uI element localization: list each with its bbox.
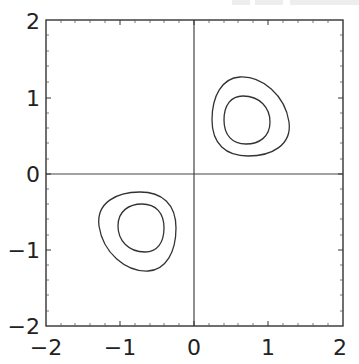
contour-plot: 2 1 0 −1 −2 −2 −1 0 1 2 <box>0 0 359 364</box>
x-tick-label: −1 <box>104 335 136 360</box>
x-tick-label: 2 <box>333 335 347 360</box>
x-tick-label: 1 <box>261 335 275 360</box>
x-tick-label: 0 <box>187 335 201 360</box>
y-tick-label: 0 <box>26 162 40 187</box>
y-tick-label: −1 <box>8 238 40 263</box>
y-tick-label: 2 <box>26 9 40 34</box>
contour-lower-left-inner <box>118 204 164 252</box>
x-tick-label: −2 <box>30 335 62 360</box>
y-tick-label: 1 <box>26 86 40 111</box>
contour-upper-right-inner <box>224 96 270 144</box>
